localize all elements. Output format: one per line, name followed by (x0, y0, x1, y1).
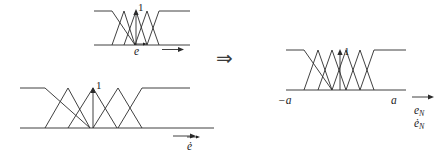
error-mf-set-nb (94, 11, 135, 45)
normalized-axis-edot-text: ė (414, 117, 419, 129)
error-mf-axis-arrowhead (178, 47, 184, 52)
error-mf-set-ps (135, 11, 159, 45)
error-rate-mf-plot (18, 83, 216, 137)
error-mf-set-ze (124, 11, 147, 45)
error-rate-mf-axis-label: ė (187, 141, 192, 153)
normalized-mf-tick-left: −a (278, 95, 292, 107)
error-rate-mf-axis-label-text: ė (187, 140, 192, 152)
vector-arrow-icon (187, 134, 193, 139)
normalized-mf-axis-label-secondary: ėN (414, 117, 424, 131)
normalized-mf-peak-label: 1 (344, 46, 350, 57)
normalized-mf-peak-arrowhead (337, 49, 342, 55)
vector-arrow-icon (134, 41, 140, 46)
normalized-mf-tick-right: a (391, 95, 397, 107)
implies-arrow-icon: ⇒ (216, 48, 233, 68)
error-rate-mf-peak-label: 1 (96, 80, 102, 91)
normalized-mf-set-pb-shoulder (360, 50, 406, 90)
error-mf-set-pb (147, 11, 190, 45)
error-rate-mf-peak-arrowhead (90, 87, 95, 93)
normalized-mf-axis-arrowhead (428, 95, 434, 100)
normalized-mf-set-pb (346, 50, 374, 90)
error-mf-peak-label: 1 (138, 2, 144, 13)
normalized-mf-set-ze (318, 50, 346, 90)
error-rate-mf-set-ze (68, 88, 117, 128)
panel-error-rate-mf (18, 83, 216, 137)
error-mf-axis-label: e (134, 46, 139, 58)
figure-canvas: 1 e (0, 0, 435, 159)
error-rate-mf-set-ps (93, 88, 142, 128)
normalized-axis-e-text: e (414, 104, 419, 116)
error-rate-mf-set-pb (118, 88, 190, 128)
error-mf-axis-label-text: e (134, 45, 139, 57)
normalized-axis-edot-sub: N (419, 122, 424, 131)
